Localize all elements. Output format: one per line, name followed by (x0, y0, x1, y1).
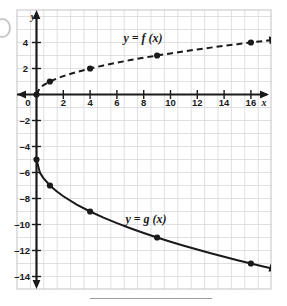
data-point (248, 39, 254, 45)
data-point (154, 234, 160, 240)
bottom-divider-rule (90, 298, 212, 299)
y-tick-label-neg14: –14 (14, 271, 31, 282)
coordinate-plane-svg: y x 0 2 4 6 8 10 12 14 16 4 2 –2 –4 –6 –… (0, 0, 287, 306)
y-axis-name: y (30, 11, 36, 22)
data-point (248, 260, 254, 266)
graph-figure: y x 0 2 4 6 8 10 12 14 16 4 2 –2 –4 –6 –… (0, 0, 287, 306)
curve-arrowhead (269, 36, 278, 44)
y-tick-label-neg10: –10 (14, 219, 30, 230)
data-point (87, 65, 93, 71)
x-tick-label-4: 4 (87, 97, 93, 108)
x-tick-label-10: 10 (165, 97, 176, 108)
y-tick-label-neg6: –6 (19, 167, 30, 178)
data-point (47, 78, 53, 84)
x-tick-label-16: 16 (246, 97, 257, 108)
y-tick-label-neg12: –12 (14, 245, 30, 256)
x-tick-label-2: 2 (61, 97, 66, 108)
x-tick-label-12: 12 (192, 97, 203, 108)
y-tick-label-neg8: –8 (19, 193, 30, 204)
data-point (87, 208, 93, 214)
data-point (47, 182, 53, 188)
y-tick-label-neg4: –4 (19, 141, 30, 152)
y-tick-label-2: 2 (23, 63, 28, 74)
origin-tick-label: 0 (25, 97, 30, 108)
x-tick-label-14: 14 (219, 97, 230, 108)
data-point (154, 52, 160, 58)
data-point (33, 156, 39, 162)
y-tick-label-neg2: –2 (19, 115, 30, 126)
x-axis-name: x (261, 97, 267, 108)
x-tick-label-6: 6 (114, 97, 119, 108)
data-point (33, 91, 39, 97)
y-tick-label-4: 4 (23, 37, 29, 48)
curve-f-arrowhead (269, 36, 278, 44)
x-tick-label-8: 8 (141, 97, 146, 108)
curve-label-f: y = f (x) (121, 31, 162, 45)
curve-label-g: y = g (x) (123, 212, 166, 226)
plot-background (17, 10, 271, 289)
